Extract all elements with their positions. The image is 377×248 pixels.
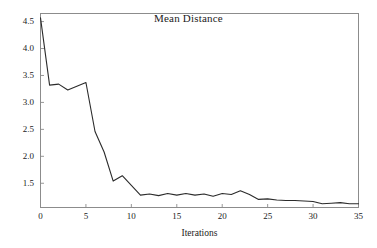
y-axis-tick-label: 4.5 <box>0 17 34 26</box>
y-axis-tick-label: 2.0 <box>0 152 34 161</box>
y-axis-tick-label: 1.5 <box>0 179 34 188</box>
y-axis-tick-label: 3.0 <box>0 98 34 107</box>
x-axis-ticks <box>41 204 359 208</box>
y-axis-tick-label: 4.0 <box>0 44 34 53</box>
x-axis-tick-label: 15 <box>162 212 192 221</box>
x-axis-tick-label: 20 <box>207 212 237 221</box>
x-axis-tick-label: 30 <box>298 212 328 221</box>
mean-distance-line <box>41 18 359 204</box>
x-axis-tick-label: 35 <box>344 212 374 221</box>
y-axis-ticks <box>41 22 45 184</box>
chart-figure: Mean Distance 1.52.02.53.03.54.04.5 0510… <box>0 0 377 248</box>
y-axis-tick-label: 3.5 <box>0 71 34 80</box>
x-axis-tick-label: 0 <box>26 212 56 221</box>
x-axis-tick-label: 5 <box>71 212 101 221</box>
x-axis-label: Iterations <box>40 228 359 238</box>
y-axis-tick-label: 2.5 <box>0 125 34 134</box>
x-axis-tick-label: 10 <box>116 212 146 221</box>
chart-canvas <box>0 0 377 248</box>
x-axis-tick-label: 25 <box>253 212 283 221</box>
